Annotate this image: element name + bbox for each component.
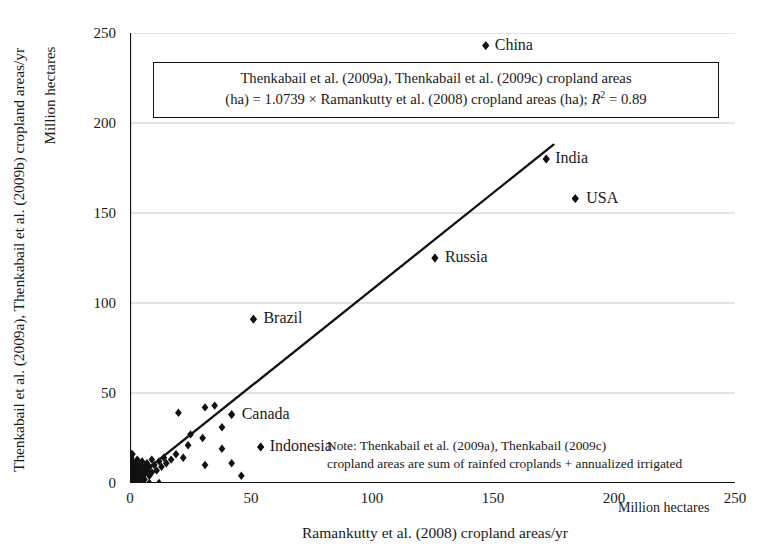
y-tick-250: 250 — [66, 26, 116, 41]
y-tick-0: 0 — [66, 476, 116, 491]
y-tick-50: 50 — [66, 386, 116, 401]
data-point — [173, 450, 180, 458]
point-label-india: India — [555, 149, 588, 167]
y-tick-100: 100 — [66, 296, 116, 311]
r-squared-value: = 0.89 — [605, 91, 646, 107]
regression-equation-box: Thenkabail et al. (2009a), Thenkabail et… — [153, 62, 719, 118]
data-point — [185, 441, 192, 449]
point-label-usa: USA — [586, 189, 618, 207]
data-point-labeled — [431, 254, 438, 263]
y-tick-200: 200 — [66, 116, 116, 131]
data-point-labeled — [543, 155, 550, 164]
data-point-labeled — [250, 315, 257, 324]
regression-equation-line2-prefix: (ha) = 1.0739 × Ramankutty et al. (2008)… — [225, 91, 591, 107]
data-point-labeled — [572, 194, 579, 203]
y-tick-150: 150 — [66, 206, 116, 221]
x-tick-250: 250 — [705, 491, 765, 506]
chart-note-line1: Note: Thenkabail et al. (2009a), Thenkab… — [327, 437, 682, 455]
data-point-labeled — [228, 410, 235, 419]
data-point-labeled — [482, 41, 489, 50]
point-label-brazil: Brazil — [263, 309, 302, 327]
trend-line — [130, 145, 554, 483]
point-label-russia: Russia — [445, 248, 488, 266]
data-point — [219, 445, 226, 453]
point-label-indonesia: Indonesia — [270, 437, 332, 455]
data-point — [202, 403, 209, 411]
regression-equation-line2: (ha) = 1.0739 × Ramankutty et al. (2008)… — [162, 88, 710, 109]
data-point — [219, 423, 226, 431]
data-point — [228, 459, 235, 467]
y-axis-units: Million hectares — [36, 20, 66, 170]
data-point — [180, 454, 187, 462]
data-point — [238, 472, 245, 480]
scatter-chart-figure: Thenkabail et al. (2009a), Thenkabail et… — [0, 0, 767, 557]
point-label-canada: Canada — [242, 405, 290, 423]
x-tick-100: 100 — [342, 491, 402, 506]
x-tick-0: 0 — [100, 491, 160, 506]
data-point — [156, 479, 163, 483]
regression-equation-line1: Thenkabail et al. (2009a), Thenkabail et… — [162, 69, 710, 88]
data-point — [211, 401, 218, 409]
y-axis-units-text: Million hectares — [43, 46, 60, 144]
point-label-china: China — [495, 36, 533, 54]
x-tick-150: 150 — [463, 491, 523, 506]
chart-note-line2: cropland areas are sum of rainfed cropla… — [327, 455, 682, 473]
chart-note: Note: Thenkabail et al. (2009a), Thenkab… — [327, 437, 682, 473]
x-tick-50: 50 — [221, 491, 281, 506]
x-axis-title: Ramankutty et al. (2008) cropland areas/… — [130, 524, 740, 542]
data-point — [199, 434, 206, 442]
r-squared-symbol: R — [591, 91, 600, 107]
data-point — [175, 409, 182, 417]
x-axis-units: Million hectares — [618, 500, 709, 516]
y-axis-title: Thenkabail et al. (2009a), Thenkabail et… — [2, 0, 36, 520]
data-point — [202, 461, 209, 469]
data-point-labeled — [257, 443, 264, 452]
y-axis-title-text: Thenkabail et al. (2009a), Thenkabail et… — [10, 48, 28, 472]
